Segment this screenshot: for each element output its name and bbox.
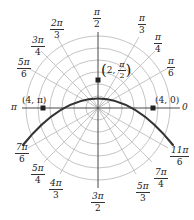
angle-label-pi: π [11,103,17,112]
angle-label-5pi-over-6: 5π 6 [17,58,31,79]
angle-label-7pi-over-4: 7π 4 [154,168,168,189]
angle-label-3pi-over-2: 3π 2 [91,192,105,213]
angle-label-5pi-over-4: 5π 4 [31,164,45,185]
point-label-2-pi-over-2: (2, π2) [101,61,131,80]
angle-label-pi-over-3: π 3 [138,14,146,35]
angle-label-2pi-over-3: 2π 3 [50,19,64,40]
polar-graph-figure: 0 π 6 π 4 π 3 π 2 2π 3 3π 4 5π 6 π 7π 6 … [0,0,194,220]
angle-label-5pi-over-3: 5π 3 [136,182,150,203]
angle-label-pi-over-6: π 6 [167,57,175,78]
point-label-4-pi: (4, π) [22,96,46,105]
point-2-pi-over-2 [96,78,101,83]
angle-label-pi-over-4: π 4 [154,33,162,54]
angle-label-4pi-over-3: 4π 3 [49,179,63,200]
angle-label-11pi-over-6: 11π 6 [170,146,189,167]
angle-label-0: 0 [182,103,188,112]
point-4-pi [41,106,46,111]
point-4-0 [151,106,156,111]
angle-label-7pi-over-6: 7π 6 [15,143,29,164]
point-label-4-0: (4, 0) [155,96,179,105]
angle-label-3pi-over-4: 3π 4 [31,36,45,57]
angle-label-pi-over-2: π 2 [93,8,101,29]
